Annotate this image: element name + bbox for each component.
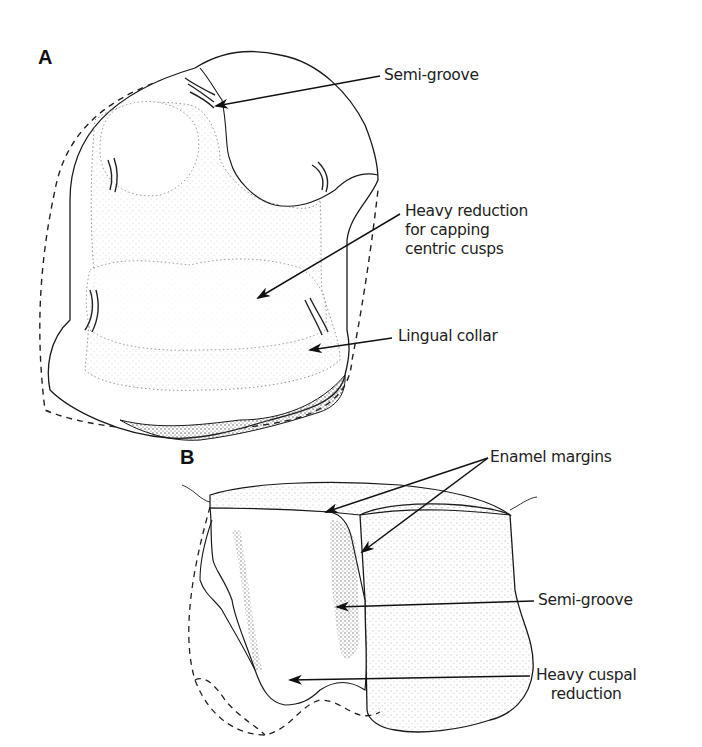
- label-b-heavy-cuspal-reduction: Heavy cuspal reduction: [536, 666, 636, 704]
- panel-a-occlusal-view: [40, 52, 378, 441]
- panel-label-b: B: [180, 446, 194, 469]
- label-b-enamel-margins: Enamel margins: [490, 448, 612, 467]
- label-a-semi-groove: Semi-groove: [384, 66, 479, 85]
- tooth-preparation-diagram: [0, 0, 702, 747]
- panel-b-proximal-view: [182, 482, 537, 735]
- label-a-heavy-reduction: Heavy reduction for capping centric cusp…: [405, 202, 528, 259]
- label-b-semi-groove: Semi-groove: [538, 591, 633, 610]
- label-a-lingual-collar: Lingual collar: [398, 327, 497, 346]
- panel-label-a: A: [38, 46, 52, 69]
